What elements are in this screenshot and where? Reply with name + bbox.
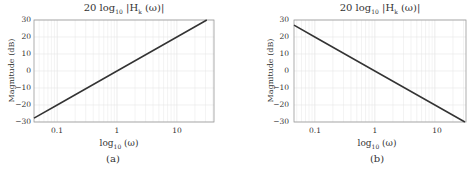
panel-caption-b: (b) [362,153,392,164]
chart-title-a: 20 log10 |Hk (ω)| [34,2,214,15]
magnitude-line [34,20,207,118]
magnitude-line [294,25,465,122]
chart-panel-b: 20 log10 |Hk (ω)| Magnitude (dB) 30 20 1… [238,0,476,169]
chart-title-b: 20 log10 |Hk (ω)| [294,2,466,15]
x-axis-label-a: log10 (ω) [84,138,154,150]
plot-area-b [294,20,466,122]
plot-area-a [34,20,214,122]
panel-caption-a: (a) [98,153,128,164]
chart-panel-a: 20 log10 |Hk (ω)| Magnitude (dB) 30 20 1… [0,0,238,169]
x-axis-label-b: log10 (ω) [342,138,412,150]
